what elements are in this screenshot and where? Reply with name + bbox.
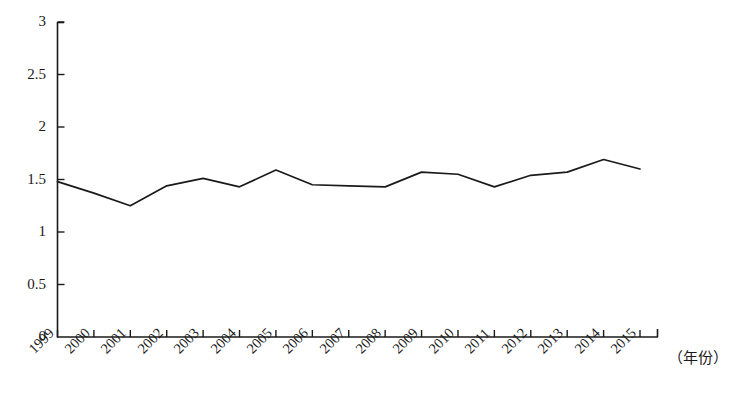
line-chart-figure: 00.511.522.53 19992000200120022003200420… — [0, 0, 753, 398]
y-tick-label: 2.5 — [0, 67, 46, 82]
data-series-line — [58, 160, 641, 206]
y-tick-label: 1.5 — [0, 172, 46, 187]
y-tick-label: 2 — [0, 119, 46, 134]
x-axis-title: （年份） — [668, 351, 728, 366]
y-axis-ticks — [58, 22, 65, 285]
y-tick-label: 3 — [0, 14, 46, 29]
y-tick-label: 0.5 — [0, 277, 46, 292]
y-tick-label: 1 — [0, 224, 46, 239]
